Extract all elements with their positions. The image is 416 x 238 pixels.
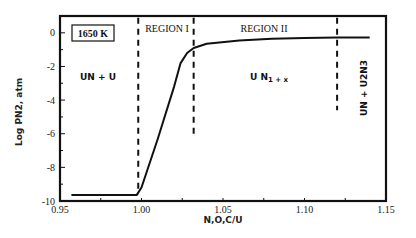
y-tick-labels: 0-2-4-6-8-10: [42, 27, 55, 206]
data-series: [71, 37, 369, 195]
y-tick-label: -10: [42, 196, 55, 207]
phase-label-un-u: UN + U: [80, 72, 116, 82]
y-tick-label: 0: [50, 27, 55, 38]
y-tick-label: -8: [47, 162, 55, 173]
x-tick-label: 1.10: [296, 204, 314, 215]
region-2-label: REGION II: [241, 23, 288, 34]
pn2-vs-ratio-chart: 0.951.001.051.101.15 0-2-4-6-8-10 1650 K…: [0, 0, 416, 238]
y-tick-label: -2: [47, 61, 55, 72]
x-axis-title: N,O,C/U: [203, 215, 242, 225]
region-1-label: REGION I: [145, 23, 189, 34]
temperature-label: 1650 K: [78, 28, 109, 39]
temperature-box: 1650 K: [72, 25, 114, 41]
x-tick-label: 1.00: [133, 204, 151, 215]
phase-label-un1x: U N1 + x: [250, 72, 289, 84]
phase-label-un-u2n3: UN + U2N3: [359, 60, 369, 116]
phase-label-un1x-base: U N: [250, 72, 268, 82]
x-tick-label: 1.05: [214, 204, 232, 215]
y-axis-title: Log PN2, atm: [14, 78, 24, 146]
axis-ticks: [60, 33, 386, 201]
x-tick-label: 1.15: [377, 204, 395, 215]
phase-label-un1x-subscript: 1 + x: [268, 76, 289, 84]
y-tick-label: -4: [47, 95, 55, 106]
x-tick-labels: 0.951.001.051.101.15: [51, 204, 395, 215]
pn2-curve: [71, 37, 369, 195]
y-tick-label: -6: [47, 128, 55, 139]
